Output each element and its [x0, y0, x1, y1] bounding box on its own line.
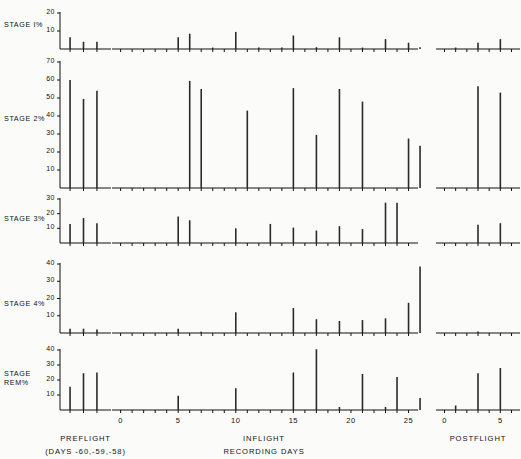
x-axis-label-inflight-0: 0 — [118, 416, 123, 425]
sleep-stage-figure: STAGE I%1020STAGE 2%10203040506070STAGE … — [0, 0, 521, 459]
y-tick-label-stage4-30: 30 — [46, 276, 55, 283]
panel-label-stagerem: STAGE REM% — [4, 369, 50, 387]
y-tick-label-stage2-20: 20 — [46, 147, 55, 154]
panel-label-stage4: STAGE 4% — [4, 299, 50, 308]
y-tick-label-stagerem-20: 20 — [46, 375, 55, 382]
y-tick-label-stagerem-30: 30 — [46, 360, 55, 367]
y-tick-label-stage4-20: 20 — [46, 294, 55, 301]
x-axis-label-inflight-10: 10 — [231, 416, 240, 425]
panel-label-stage2: STAGE 2% — [4, 114, 50, 123]
y-tick-label-stage1-20: 20 — [46, 8, 55, 15]
x-axis-title: RECORDING DAYS — [223, 447, 304, 456]
y-tick-label-stagerem-10: 10 — [46, 390, 55, 397]
y-tick-label-stage3-20: 20 — [46, 209, 55, 216]
y-tick-label-stage2-10: 10 — [46, 165, 55, 172]
y-tick-label-stage4-40: 40 — [46, 259, 55, 266]
caption-postflight: POSTFLIGHT — [450, 434, 507, 443]
y-tick-label-stage2-40: 40 — [46, 111, 55, 118]
caption-preflight-days: (DAYS -60,-59,-58) — [45, 447, 126, 456]
x-axis-label-inflight-15: 15 — [289, 416, 298, 425]
y-tick-label-stage3-30: 30 — [46, 194, 55, 201]
caption-preflight: PREFLIGHT — [60, 434, 111, 443]
x-axis-label-inflight-5: 5 — [176, 416, 181, 425]
y-tick-label-stage1-10: 10 — [46, 26, 55, 33]
y-tick-label-stagerem-40: 40 — [46, 345, 55, 352]
y-tick-label-stage2-60: 60 — [46, 75, 55, 82]
panel-label-stage3: STAGE 3% — [4, 214, 50, 223]
y-tick-label-stage2-70: 70 — [46, 57, 55, 64]
panel-label-stage1: STAGE I% — [4, 20, 50, 29]
x-axis-label-postflight-5: 5 — [498, 416, 503, 425]
y-tick-label-stage3-10: 10 — [46, 223, 55, 230]
x-axis-label-inflight-25: 25 — [404, 416, 413, 425]
x-axis-label-postflight-0: 0 — [442, 416, 447, 425]
y-tick-label-stage2-30: 30 — [46, 129, 55, 136]
caption-inflight: INFLIGHT — [243, 434, 285, 443]
y-tick-label-stage2-50: 50 — [46, 93, 55, 100]
chart-canvas — [0, 0, 521, 459]
y-tick-label-stage4-10: 10 — [46, 311, 55, 318]
x-axis-label-inflight-20: 20 — [346, 416, 355, 425]
